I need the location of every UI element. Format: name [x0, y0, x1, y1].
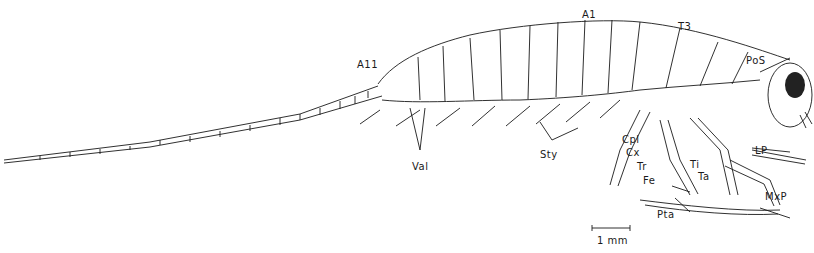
insect-drawing: [0, 0, 814, 253]
label-Ti: Ti: [690, 160, 700, 170]
label-Tr: Tr: [637, 162, 647, 172]
label-Cx: Cx: [626, 148, 640, 158]
label-A11: A11: [357, 60, 378, 70]
label-Fe: Fe: [643, 176, 655, 186]
label-Pta: Pta: [657, 210, 675, 220]
label-Sty: Sty: [540, 150, 558, 160]
label-LP: LP: [755, 146, 768, 156]
scale-bar-label: 1 mm: [597, 236, 628, 246]
label-A1: A1: [582, 10, 596, 20]
label-MxP: MxP: [765, 192, 787, 202]
label-Ta: Ta: [698, 172, 710, 182]
label-T3: T3: [678, 22, 691, 32]
styli: [360, 100, 620, 126]
label-Val: Val: [412, 162, 428, 172]
label-Cpl: Cpl: [622, 135, 640, 145]
scale-bar-line: [592, 225, 630, 231]
label-PoS: PoS: [746, 56, 766, 66]
